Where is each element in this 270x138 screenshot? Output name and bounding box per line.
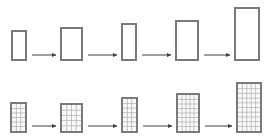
rectangle-2-body [61, 28, 82, 60]
rectangle-1-body [12, 31, 26, 60]
rectangle-1 [12, 31, 26, 60]
rectangle-5 [235, 8, 259, 60]
grid-rectangle-3 [122, 98, 137, 132]
rectangle-4 [176, 21, 198, 60]
rectangle-3 [122, 24, 136, 60]
rectangle-2 [61, 28, 82, 60]
diagram-canvas [0, 0, 270, 138]
grid-rectangle-2 [61, 104, 82, 132]
rectangle-3-body [122, 24, 136, 60]
grid-rectangle-5 [237, 83, 261, 132]
grid-rectangle-3-body [122, 98, 137, 132]
rectangle-4-body [176, 21, 198, 60]
rectangle-5-body [235, 8, 259, 60]
grid-rectangle-4 [177, 94, 199, 132]
grid-rectangle-1 [11, 103, 26, 132]
diagram-svg [0, 0, 270, 138]
